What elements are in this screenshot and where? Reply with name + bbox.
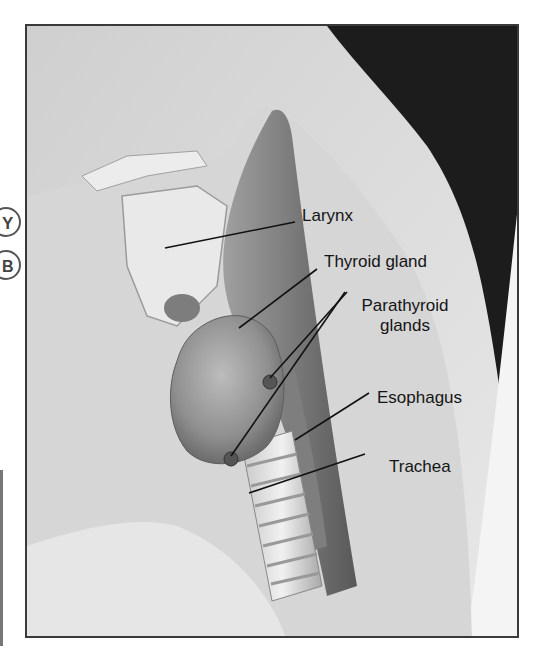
label-parathyroid-glands: Parathyroid glands: [350, 296, 460, 335]
label-larynx: Larynx: [302, 206, 353, 226]
label-thyroid-gland: Thyroid gland: [324, 252, 427, 272]
edge-circle-marks: Y B: [0, 200, 24, 310]
label-parathyroid-line2: glands: [350, 316, 460, 336]
edge-mark-b: B: [2, 258, 14, 275]
label-esophagus: Esophagus: [377, 388, 462, 408]
illustration-frame: Larynx Thyroid gland Parathyroid glands …: [25, 24, 519, 638]
edge-mark-y: Y: [2, 214, 14, 233]
label-parathyroid-line1: Parathyroid: [350, 296, 460, 316]
label-trachea: Trachea: [389, 457, 451, 477]
left-edge-rule: [0, 470, 3, 646]
